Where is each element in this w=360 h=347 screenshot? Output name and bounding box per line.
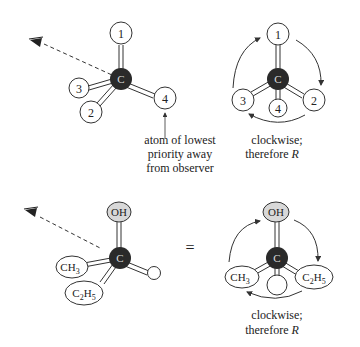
hydrogen-atom [267,275,287,295]
caption-line-1: clockwise; [251,308,302,322]
carbon-label: C [274,73,281,85]
substituent-2-label: 2 [311,94,317,108]
top-left-molecule: 1 3 2 4 C atom of lowest priority away f… [29,22,216,175]
caption-line-2: therefore R [245,147,299,161]
eye-icon [29,37,43,47]
substituent-3-label: 3 [240,94,246,108]
oh-label: OH [111,206,127,218]
caption-line-3: from observer [146,161,214,175]
caption-line-2: priority away [148,147,212,161]
caption-line-1: atom of lowest [144,133,216,147]
stereochemistry-diagram: 1 3 2 4 C atom of lowest priority away f… [0,0,360,347]
oh-label: OH [268,206,284,218]
carbon-label: C [117,73,124,85]
substituent-1-label: 1 [118,27,124,41]
substituent-4-label: 4 [275,102,281,116]
caption-line-1: clockwise; [251,133,302,147]
bottom-left-molecule: OH CH3 C2H5 C [24,202,161,305]
substituent-1-label: 1 [275,28,281,42]
eye-icon [24,207,38,217]
carbon-label: C [273,252,280,264]
carbon-label: C [116,252,123,264]
top-right-molecule: 1 3 2 C 4 clockwise; therefore R [232,23,325,161]
substituent-3-label: 3 [76,82,82,96]
caption-line-2: therefore R [245,323,299,337]
bottom-right-molecule: OH CH3 C2H5 C clockwise; therefore R [225,202,333,337]
equals-sign: = [185,239,194,256]
substituent-4-label: 4 [162,92,168,106]
line-of-sight [40,217,102,249]
line-of-sight [44,44,112,75]
hydrogen-atom [148,267,161,280]
substituent-2-label: 2 [88,106,94,120]
